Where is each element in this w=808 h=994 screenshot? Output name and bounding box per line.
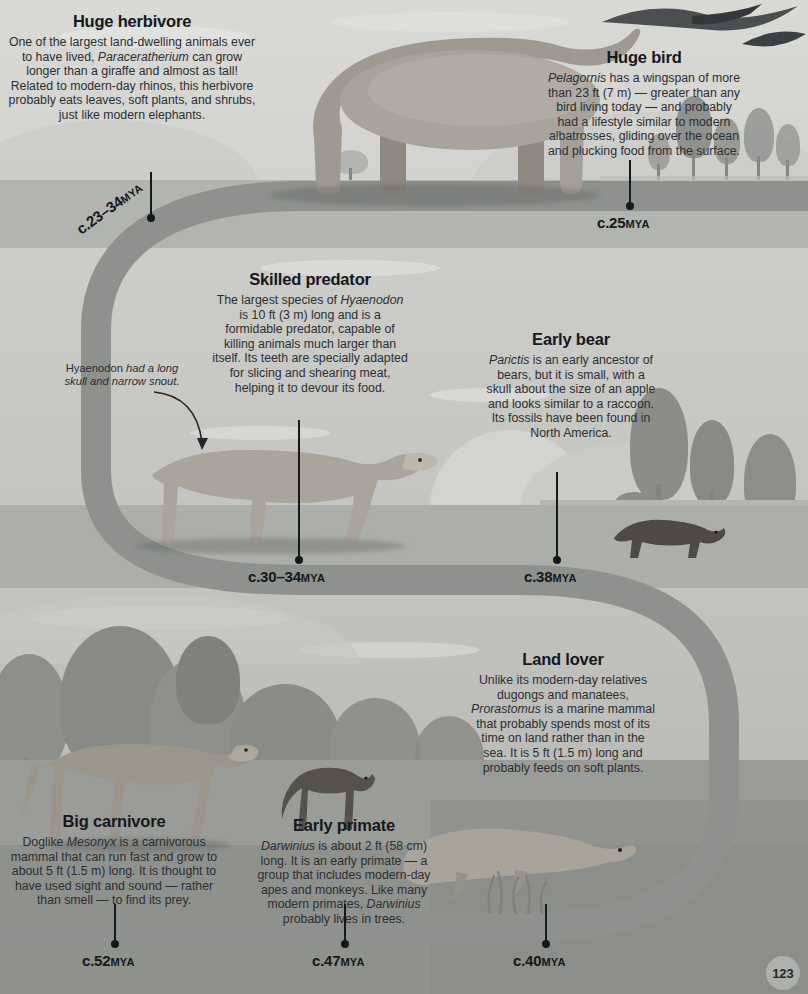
callout-body: Unlike its modern-day relatives dugongs … [468,673,658,775]
date-value: c.25 [597,214,625,231]
infographic-page: Huge herbivore One of the largest land-d… [0,0,808,994]
callout-title: Skilled predator [212,270,408,289]
callout-body: Pelagornis has a wingspan of more than 2… [546,71,742,159]
date-25: c.25MYA [597,214,650,231]
leader-line-40 [545,904,547,944]
date-unit: MYA [301,572,325,584]
callout-big-carnivore: Big carnivore Doglike Mesonyx is a carni… [6,812,222,908]
date-unit: MYA [110,956,134,968]
date-value: c.40 [513,952,541,969]
leader-line-47 [344,904,346,944]
date-unit: MYA [552,572,576,584]
date-value: c.30–34 [248,568,301,585]
callout-title: Huge herbivore [6,12,258,31]
callout-body: One of the largest land-dwelling animals… [6,35,258,123]
date-40: c.40MYA [513,952,566,969]
callout-body: The largest species of Hyaenodon is 10 f… [212,293,408,395]
parictis-figure [610,508,730,566]
date-52: c.52MYA [82,952,135,969]
note-arrow-icon [152,386,216,460]
callout-land-lover: Land lover Unlike its modern-day relativ… [468,650,658,775]
callout-title: Land lover [468,650,658,669]
callout-early-bear: Early bear Parictis is an early ancestor… [486,330,656,441]
leader-line-23-34 [150,172,152,218]
date-value: c.47 [312,952,340,969]
date-38: c.38MYA [524,568,577,585]
callout-title: Early primate [248,816,440,835]
date-30-34: c.30–34MYA [248,568,325,585]
date-value: c.52 [82,952,110,969]
leader-line-38 [556,472,558,560]
page-number: 123 [766,956,800,990]
date-unit: MYA [340,956,364,968]
date-unit: MYA [625,218,649,230]
callout-title: Big carnivore [6,812,222,831]
callout-skilled-predator: Skilled predator The largest species of … [212,270,408,395]
callout-huge-herbivore: Huge herbivore One of the largest land-d… [6,12,258,123]
callout-body: Parictis is an early ancestor of bears, … [486,353,656,441]
leader-line-25 [629,160,631,206]
leader-line-52 [114,904,116,944]
callout-title: Huge bird [546,48,742,67]
callout-huge-bird: Huge bird Pelagornis has a wingspan of m… [546,48,742,159]
date-value: c.38 [524,568,552,585]
date-47: c.47MYA [312,952,365,969]
callout-title: Early bear [486,330,656,349]
page-number-value: 123 [772,966,794,981]
seagrass-decoration [480,866,560,914]
note-text: Hyaenodon had a long skull and narrow sn… [64,362,179,387]
hyaenodon-skull-note: Hyaenodon had a long skull and narrow sn… [58,362,186,389]
leader-line-30-34 [298,420,300,560]
date-unit: MYA [541,956,565,968]
callout-body: Doglike Mesonyx is a carnivorous mammal … [6,835,222,908]
